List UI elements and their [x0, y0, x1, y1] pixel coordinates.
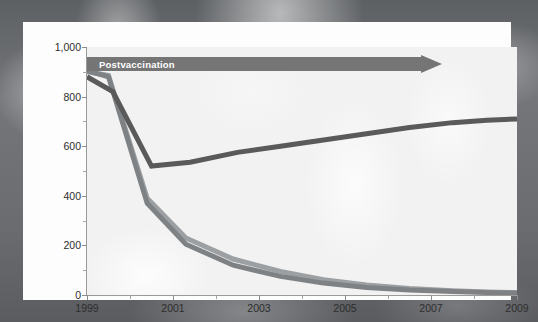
x-tick-major	[173, 295, 174, 300]
series-lines	[87, 47, 517, 295]
x-axis-label: 2001	[161, 302, 184, 314]
postvaccination-label: Postvaccination	[99, 59, 175, 70]
line-series-dark	[87, 77, 517, 166]
x-tick-major	[87, 295, 88, 300]
y-tick-minor	[83, 171, 87, 172]
y-axis-label: 600	[63, 140, 81, 152]
x-tick-major	[259, 295, 260, 300]
x-tick-major	[345, 295, 346, 300]
y-tick-minor	[83, 221, 87, 222]
y-tick-minor	[83, 121, 87, 122]
chart-panel: 02004006008001,000 199920012003200520072…	[23, 22, 511, 300]
y-tick-major	[82, 196, 87, 197]
y-tick-major	[82, 97, 87, 98]
y-axis-label: 0	[75, 289, 81, 301]
x-axis-label: 2007	[419, 302, 442, 314]
y-axis-label: 1,000	[55, 41, 81, 53]
x-tick-minor	[302, 295, 303, 299]
y-axis-label: 800	[63, 91, 81, 103]
x-tick-major	[431, 295, 432, 300]
x-axis-label: 1999	[75, 302, 98, 314]
plot-area: 02004006008001,000 199920012003200520072…	[86, 47, 517, 296]
x-tick-minor	[388, 295, 389, 299]
x-tick-major	[517, 295, 518, 300]
line-series-light-gray	[87, 72, 517, 293]
chart-screenshot: 02004006008001,000 199920012003200520072…	[0, 0, 538, 322]
x-axis-label: 2003	[247, 302, 270, 314]
postvaccination-annotation: Postvaccination	[87, 55, 442, 73]
y-axis-label: 400	[63, 190, 81, 202]
x-axis-label: 2009	[505, 302, 528, 314]
line-series-mid-gray	[87, 71, 517, 293]
y-tick-major	[82, 146, 87, 147]
y-axis-label: 200	[63, 239, 81, 251]
x-tick-minor	[130, 295, 131, 299]
x-axis-label: 2005	[333, 302, 356, 314]
y-tick-major	[82, 245, 87, 246]
x-tick-minor	[474, 295, 475, 299]
y-tick-major	[82, 47, 87, 48]
y-tick-minor	[83, 270, 87, 271]
x-tick-minor	[216, 295, 217, 299]
